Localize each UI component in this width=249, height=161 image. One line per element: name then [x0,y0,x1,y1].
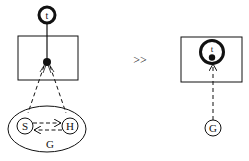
operator-symbol: >> [133,53,147,67]
bottom-g-label: G [209,122,217,134]
group-label: G [46,138,54,150]
right-composition: t G [181,37,242,136]
bottom-g-node: G [205,120,221,136]
node-h: H [62,118,78,134]
top-t-node: t [39,7,55,23]
node-s: S [17,118,33,134]
diagram-canvas: t S H G [0,0,249,161]
inner-dot [209,54,215,60]
node-h-label: H [66,120,74,132]
top-t-label: t [46,10,49,21]
left-composition: t S H G [8,7,86,152]
inner-t-node: t [201,41,224,64]
node-s-label: S [22,120,28,132]
left-box [18,36,78,80]
